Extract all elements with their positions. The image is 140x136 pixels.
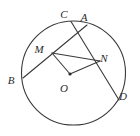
- radius-O-M: [52, 53, 70, 74]
- point-label-O: O: [60, 82, 68, 94]
- point-label-B: B: [8, 74, 15, 86]
- point-label-C: C: [60, 8, 68, 20]
- point-label-A: A: [80, 11, 88, 23]
- point-label-D: D: [118, 90, 127, 102]
- geometry-figure: B C A D M N O: [0, 0, 140, 136]
- geometry-canvas: B C A D M N O: [0, 0, 140, 136]
- point-label-N: N: [99, 52, 108, 64]
- point-label-M: M: [33, 43, 44, 55]
- radius-O-N: [70, 61, 100, 74]
- chord-C-D: [71, 22, 119, 101]
- center-point-dot: [68, 72, 71, 75]
